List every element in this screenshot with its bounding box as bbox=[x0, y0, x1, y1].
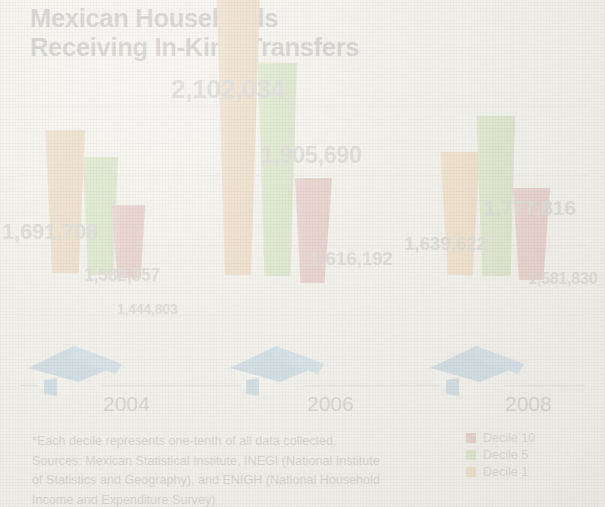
legend-item-decile-1[interactable]: Decile 1 bbox=[466, 464, 535, 480]
legend-swatch-decile-10-icon bbox=[466, 433, 476, 443]
chart-legend: Decile 10 Decile 5 Decile 1 bbox=[466, 430, 535, 481]
value-label-2006-decile-10: 1,616,192 bbox=[310, 248, 393, 270]
value-label-2004-decile-10: 1,444,803 bbox=[117, 301, 177, 317]
house-icon bbox=[26, 338, 126, 398]
legend-swatch-decile-5-icon bbox=[466, 450, 476, 460]
value-label-2008-decile-5: 1,777,816 bbox=[484, 196, 576, 220]
gridline-4 bbox=[18, 315, 588, 316]
plot-area: 1,691,708 1,582,357 1,444,803 2,102,034 … bbox=[0, 0, 605, 395]
value-label-2006-decile-5: 1,905,690 bbox=[261, 142, 362, 169]
house-icon bbox=[428, 338, 528, 398]
chart-figure: Mexican Households Receiving In-Kind Tra… bbox=[0, 0, 605, 507]
legend-swatch-decile-1-icon bbox=[466, 467, 476, 477]
legend-item-decile-10[interactable]: Decile 10 bbox=[466, 430, 535, 446]
legend-item-decile-5[interactable]: Decile 5 bbox=[466, 447, 535, 463]
footnote-sources: *Each decile represents one-tenth of all… bbox=[32, 432, 432, 507]
value-label-2008-decile-10: 1,581,830 bbox=[528, 270, 597, 288]
house-icon bbox=[228, 338, 328, 398]
value-label-2004-decile-5: 1,582,357 bbox=[84, 265, 160, 286]
value-label-2006-decile-1: 2,102,034 bbox=[171, 74, 285, 105]
value-label-2004-decile-1: 1,691,708 bbox=[2, 219, 98, 245]
legend-label-decile-1: Decile 1 bbox=[483, 465, 528, 479]
legend-label-decile-10: Decile 10 bbox=[483, 431, 535, 445]
legend-label-decile-5: Decile 5 bbox=[483, 448, 528, 462]
value-label-2008-decile-1: 1,639,622 bbox=[404, 233, 487, 255]
gridline-1 bbox=[18, 106, 588, 107]
